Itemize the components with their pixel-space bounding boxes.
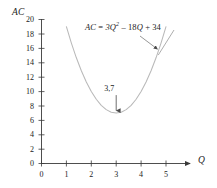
equation-term3: + 34 (145, 22, 161, 32)
y-tick-label-4: 4 (18, 130, 34, 139)
y-tick-label-6: 6 (18, 116, 34, 125)
y-tick-label-8: 8 (18, 102, 34, 111)
y-tick-label-16: 16 (18, 44, 34, 53)
x-tick-label-2: 2 (84, 170, 98, 179)
y-tick-label-12: 12 (18, 73, 34, 82)
x-tick-label-1: 1 (59, 170, 73, 179)
y-tick-label-18: 18 (18, 30, 34, 39)
x-axis-title: Q (198, 155, 205, 165)
y-tick-label-2: 2 (18, 145, 34, 154)
equation-leader-line-2 (158, 30, 174, 55)
x-tick-label-3: 3 (109, 170, 123, 179)
equation-annotation: AC = 3Q2 – 18Q + 34 (85, 22, 161, 32)
x-tick-label-5: 5 (159, 170, 173, 179)
x-tick-label-4: 4 (134, 170, 148, 179)
y-tick-label-14: 14 (18, 58, 34, 67)
vertex-annotation-label: 3,7 (104, 84, 114, 93)
x-tick-label-0: 0 (35, 170, 49, 179)
y-tick-label-0: 0 (18, 159, 34, 168)
equation-leader-line (140, 36, 157, 49)
chart-figure: AC Q 20 18 16 14 12 10 8 6 4 2 0 0 1 2 3… (0, 0, 217, 188)
equation-term2: – 18 (121, 22, 136, 32)
equation-lhs: AC (85, 22, 96, 32)
y-tick-label-20: 20 (18, 15, 34, 24)
y-tick-label-10: 10 (18, 87, 34, 96)
